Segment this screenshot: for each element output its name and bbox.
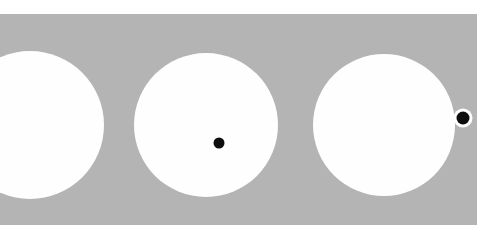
dot-center-marker (214, 138, 225, 149)
circle-right (313, 54, 455, 196)
dot-edge-marker (457, 112, 470, 125)
figure-canvas (0, 0, 486, 235)
circle-middle (134, 53, 278, 197)
figure-svg (0, 0, 486, 235)
